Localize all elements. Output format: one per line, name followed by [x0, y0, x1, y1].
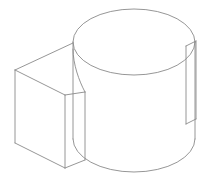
solid-fill-group [15, 9, 196, 172]
drawing-canvas [0, 0, 211, 181]
isometric-solid-figure [0, 0, 211, 181]
